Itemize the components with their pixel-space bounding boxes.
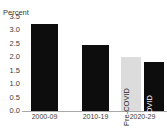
y-axis-tick: 3.0: [3, 26, 20, 34]
y-axis-tick: 0.5: [3, 94, 20, 102]
x-axis-tick-2010-19: 2010-19: [73, 113, 118, 121]
bar-2010-19[interactable]: [82, 45, 109, 111]
y-axis-tick: 3.5: [3, 13, 20, 21]
x-axis-tick-2020-29: 2020-29: [120, 113, 165, 121]
bar-2020-29-pre-covid[interactable]: Pre-COVID: [121, 57, 141, 111]
y-axis-tick: 2.0: [3, 53, 20, 61]
bar-2000-09[interactable]: [31, 24, 58, 111]
y-axis-tick: 1.5: [3, 67, 20, 75]
bar-2020-29-covid[interactable]: COVID: [144, 62, 164, 111]
x-axis-tick-2000-09: 2000-09: [22, 113, 67, 121]
bar-chart: Percent 3.5 3.0 2.5 2.0 1.5 1.0 0.5 0.0 …: [0, 0, 167, 130]
y-axis-tick: 2.5: [3, 40, 20, 48]
y-axis-tick: 1.0: [3, 80, 20, 88]
y-axis-tick: 0.0: [3, 107, 20, 115]
plot-area: 3.5 3.0 2.5 2.0 1.5 1.0 0.5 0.0 Pre-COVI…: [0, 0, 167, 130]
